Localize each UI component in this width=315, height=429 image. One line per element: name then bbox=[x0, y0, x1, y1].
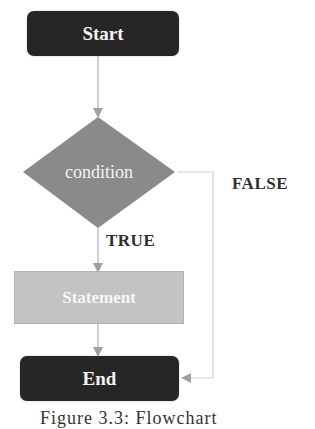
statement-node-label: Statement bbox=[62, 288, 136, 308]
start-node-label: Start bbox=[82, 23, 123, 45]
condition-node-label: condition bbox=[65, 162, 133, 183]
figure-caption: Figure 3.3: Flowchart bbox=[40, 408, 315, 429]
false-edge-label: FALSE bbox=[232, 174, 288, 194]
condition-node: condition bbox=[23, 117, 175, 228]
statement-node: Statement bbox=[14, 271, 184, 324]
end-node-label: End bbox=[83, 368, 117, 390]
true-edge-label: TRUE bbox=[106, 231, 155, 251]
start-node: Start bbox=[27, 11, 179, 56]
end-node: End bbox=[20, 356, 179, 401]
